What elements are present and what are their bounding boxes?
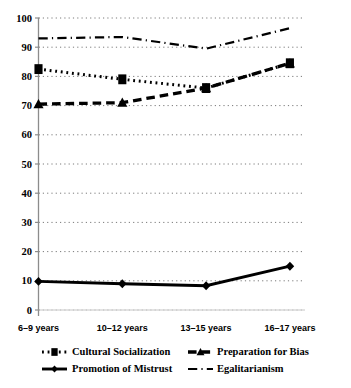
line-chart: 0102030405060708090100 6–9 years10–12 ye… xyxy=(0,0,351,388)
y-tick-label-40: 40 xyxy=(22,188,33,199)
y-tick-label-60: 60 xyxy=(22,129,33,140)
y-tick-label-0: 0 xyxy=(27,305,32,316)
legend-label: Egalitarianism xyxy=(217,363,284,374)
chart-canvas: 0102030405060708090100 6–9 years10–12 ye… xyxy=(0,0,351,388)
y-tick-label-80: 80 xyxy=(22,71,33,82)
x-tick-label-2: 13–15 years xyxy=(181,323,232,333)
y-tick-label-90: 90 xyxy=(22,42,33,53)
x-tick-label-3: 16–17 years xyxy=(264,323,315,333)
y-tick-label-30: 30 xyxy=(22,217,33,228)
legend-marker-square xyxy=(51,348,57,356)
data-point-0 xyxy=(34,64,42,74)
y-tick-label-20: 20 xyxy=(22,246,33,257)
y-tick-label-10: 10 xyxy=(22,275,33,286)
data-point-1 xyxy=(118,74,126,84)
legend-label: Promotion of Mistrust xyxy=(72,363,173,374)
y-tick-label-100: 100 xyxy=(16,13,32,24)
x-tick-label-1: 10–12 years xyxy=(97,323,148,333)
y-tick-label-70: 70 xyxy=(22,100,33,111)
legend-label: Cultural Socialization xyxy=(72,346,170,357)
x-tick-label-0: 6–9 years xyxy=(18,323,59,333)
legend-label: Preparation for Bias xyxy=(217,346,309,357)
y-tick-label-50: 50 xyxy=(22,159,33,170)
